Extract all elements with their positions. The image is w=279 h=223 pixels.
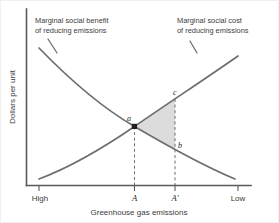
annotation-benefit-line1: Marginal social benefit: [35, 16, 109, 25]
marginal-social-cost-curve: [39, 56, 238, 179]
chart-figure: Marginal social benefit of reducing emis…: [0, 0, 279, 223]
shaded-region-abc: [135, 99, 176, 149]
leader-line-benefit: [48, 39, 57, 53]
annotation-cost-line1: Marginal social cost: [177, 16, 242, 25]
x-tick-label-a: A: [131, 193, 138, 203]
point-marker-a: [132, 124, 137, 129]
chart-canvas: Marginal social benefit of reducing emis…: [1, 1, 279, 223]
x-tick-label-high: High: [32, 194, 48, 203]
annotation-benefit-line2: of reducing emissions: [35, 26, 107, 35]
marginal-social-benefit-curve: [39, 48, 235, 179]
point-label-b: b: [178, 141, 182, 150]
annotation-cost-line2: of reducing emissions: [177, 26, 249, 35]
y-axis-title: Dollars per unit: [8, 69, 17, 124]
x-axis-title: Greenhouse gas emissions: [91, 208, 188, 217]
x-tick-label-low: Low: [231, 194, 246, 203]
point-label-a: a: [127, 114, 131, 123]
x-tick-label-a-prime: A': [170, 193, 178, 203]
point-label-c: c: [173, 88, 177, 97]
leader-line-cost: [190, 41, 197, 53]
